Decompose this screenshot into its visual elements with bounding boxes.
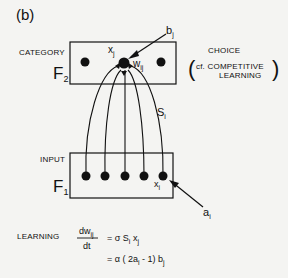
f2-node — [81, 58, 90, 67]
xj-label: xj — [108, 44, 115, 55]
f1-node — [82, 172, 91, 181]
wij-label: wij — [133, 58, 143, 69]
f1-node — [140, 172, 149, 181]
input-label: INPUT — [40, 155, 65, 164]
category-label: CATEGORY — [19, 48, 65, 57]
competitive-line1: cf. COMPETITIVE — [196, 62, 264, 71]
f1-layer-name: F1 — [53, 177, 68, 197]
close-paren: ) — [272, 56, 279, 82]
adaptive-connections — [86, 66, 163, 176]
xi-label: xi — [154, 179, 160, 189]
eq-denominator: dt — [83, 241, 91, 251]
eq-numerator: dwij — [79, 226, 94, 236]
choice-label: CHOICE — [208, 46, 240, 55]
competitive-line2: LEARNING — [219, 71, 262, 80]
bj-label: bj — [166, 24, 174, 36]
f1-node — [101, 172, 110, 181]
ai-label: ai — [203, 206, 211, 218]
learning-label: LEARNING — [17, 232, 60, 241]
f2-node — [157, 58, 166, 67]
f2-layer-name: F2 — [53, 64, 68, 84]
open-paren: ( — [188, 56, 195, 82]
eq-line2: = α ( 2ai - 1) bj — [107, 254, 165, 264]
f1-node — [121, 172, 130, 181]
si-label: Si — [157, 106, 166, 118]
eq-line1: = σ Si xj — [107, 233, 139, 243]
